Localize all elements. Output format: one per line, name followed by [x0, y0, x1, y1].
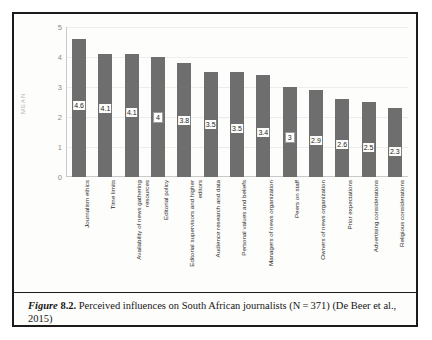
x-axis-category-label: Journalism ethics [83, 180, 91, 288]
figure-frame: MEAN 543210 4.64.14.143.83.53.53.432.92.… [12, 12, 418, 327]
x-axis-category-label: Personal values and beliefs [240, 180, 248, 288]
x-axis-category-slot: Owners of news organization [303, 180, 329, 290]
bar-value-label: 3.4 [257, 128, 269, 137]
bar-value-label: 3 [285, 132, 295, 143]
bar-slot: 4 [145, 27, 171, 177]
caption-divider [14, 292, 416, 293]
bar[interactable] [256, 75, 270, 177]
y-axis-tick-label: 2 [42, 113, 62, 122]
y-axis-tick-label: 1 [42, 143, 62, 152]
y-axis-tick-label: 0 [42, 173, 62, 182]
x-axis-category-slot: Prior expectations [329, 180, 355, 290]
bar-value-label: 4 [153, 112, 163, 123]
x-axis-category-slot: Audience research and data [198, 180, 224, 290]
caption-figure-word: Figure [28, 300, 58, 311]
bar-slot: 3.5 [198, 27, 224, 177]
bar[interactable] [388, 108, 402, 177]
x-axis-category-slot: Editorial policy [145, 180, 171, 290]
bar-slot: 2.9 [303, 27, 329, 177]
x-axis-category-slot: Managers of news organization [250, 180, 276, 290]
x-axis-category-slot: Religious considerations [382, 180, 408, 290]
bar[interactable] [362, 102, 376, 177]
bar-slot: 2.3 [382, 27, 408, 177]
bar-slot: 2.5 [355, 27, 381, 177]
x-axis-category-label: Prior expectations [346, 180, 354, 288]
x-axis-category-label: Owners of news organization [319, 180, 327, 288]
x-axis-category-label: Time limits [109, 180, 117, 288]
x-axis-category-label: Advertising considerations [372, 180, 380, 288]
bar-slot: 4.1 [119, 27, 145, 177]
bar-slot: 2.6 [329, 27, 355, 177]
bar-value-label: 3.5 [231, 124, 243, 133]
bar-chart: MEAN 543210 4.64.14.143.83.53.53.432.92.… [14, 14, 416, 292]
y-axis-tick-label: 3 [42, 83, 62, 92]
x-axis-category-slot: Availability of news gatheringresources [119, 180, 145, 290]
x-axis-category-label: Religious considerations [398, 180, 406, 288]
caption-figure-number: 8.2. [60, 300, 76, 311]
x-axis-category-slot: Personal values and beliefs [224, 180, 250, 290]
bar[interactable] [309, 90, 323, 177]
bar-slot: 4.1 [92, 27, 118, 177]
bar-value-label: 2.6 [336, 140, 348, 149]
figure-caption: Figure 8.2. Perceived influences on Sout… [28, 299, 406, 325]
bar-value-label: 2.9 [310, 136, 322, 145]
bar-slot: 3.4 [250, 27, 276, 177]
bar-value-label: 4.1 [100, 104, 112, 113]
bar-value-label: 4.6 [73, 101, 85, 110]
x-axis-category-slot: Editorial supervisors and highereditors [171, 180, 197, 290]
bar-value-label: 2.5 [363, 143, 375, 152]
caption-body: Perceived influences on South African jo… [28, 300, 396, 324]
x-axis-category-slot: Peers on staff [276, 180, 302, 290]
x-axis-category-slot: Advertising considerations [355, 180, 381, 290]
y-axis-title: MEAN [20, 93, 26, 114]
x-axis-category-label: Peers on staff [293, 180, 301, 288]
bar-slot: 3.5 [224, 27, 250, 177]
x-axis-category-label: Managers of news organization [267, 180, 275, 288]
bar-slot: 3.8 [171, 27, 197, 177]
x-axis-category-slot: Journalism ethics [66, 180, 92, 290]
x-axis-category-label: Editorial policy [162, 180, 170, 288]
y-axis-ticks: 543210 [38, 27, 62, 177]
bar-value-label: 3.8 [178, 116, 190, 125]
bar[interactable] [98, 54, 112, 177]
y-axis-tick-label: 4 [42, 53, 62, 62]
bar-value-label: 4.1 [126, 108, 138, 117]
x-axis-category-labels: Journalism ethicsTime limitsAvailability… [66, 180, 408, 290]
bar-slot: 4.6 [66, 27, 92, 177]
bar-value-label: 3.5 [205, 120, 217, 129]
y-axis-tick-label: 5 [42, 23, 62, 32]
x-axis-category-slot: Time limits [92, 180, 118, 290]
x-axis-category-label: Audience research and data [214, 180, 222, 288]
bar-series: 4.64.14.143.83.53.53.432.92.62.52.3 [66, 27, 408, 177]
bar-value-label: 2.3 [389, 147, 401, 156]
bar-slot: 3 [276, 27, 302, 177]
bar[interactable] [335, 99, 349, 177]
